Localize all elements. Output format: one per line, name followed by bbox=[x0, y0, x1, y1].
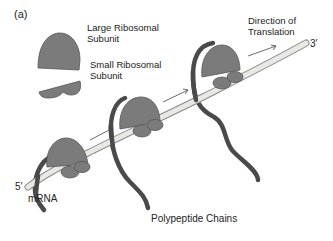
direction-label-2: Translation bbox=[248, 26, 295, 37]
small-subunit-label-2: Subunit bbox=[90, 70, 123, 81]
small-subunit-label: Small Ribosomal bbox=[90, 59, 161, 70]
free-large-subunit bbox=[38, 33, 80, 70]
large-subunit-label: Large Ribosomal bbox=[87, 22, 159, 33]
arrow-icon bbox=[248, 45, 276, 56]
panel-label: (a) bbox=[14, 8, 27, 20]
arrow-icon bbox=[163, 89, 188, 102]
polypeptide-label: Polypeptide Chains bbox=[151, 213, 237, 224]
direction-label: Direction of bbox=[248, 15, 296, 26]
large-subunit-label-2: Subunit bbox=[87, 33, 120, 44]
free-small-subunit bbox=[39, 81, 81, 98]
translation-diagram: (a) Large Ribosomal Subunit Small Riboso… bbox=[0, 0, 333, 241]
ribosome-3 bbox=[202, 45, 243, 89]
five-prime-label: 5′ bbox=[15, 181, 23, 192]
mrna-label: mRNA bbox=[28, 193, 58, 204]
three-prime-label: 3′ bbox=[310, 38, 318, 49]
